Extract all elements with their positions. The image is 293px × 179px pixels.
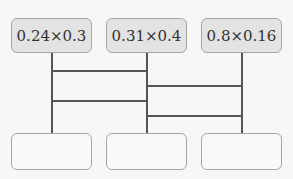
answer-box-3[interactable] xyxy=(201,133,282,170)
ladder-rail-1 xyxy=(51,53,53,134)
ladder-rung xyxy=(146,115,242,117)
expression-box-1: 0.24×0.3 xyxy=(11,18,92,53)
answer-box-1[interactable] xyxy=(11,133,92,170)
ladder-rail-3 xyxy=(241,53,243,134)
ladder-rung xyxy=(51,100,147,102)
ladder-rung xyxy=(51,70,147,72)
answer-box-2[interactable] xyxy=(106,133,187,170)
expression-box-3: 0.8×0.16 xyxy=(201,18,282,53)
ladder-rail-2 xyxy=(146,53,148,134)
ladder-rung xyxy=(146,85,242,87)
expression-box-2: 0.31×0.4 xyxy=(106,18,187,53)
